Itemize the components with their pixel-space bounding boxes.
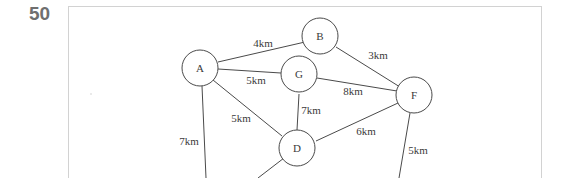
edge-g-d bbox=[297, 94, 299, 130]
speck-mark bbox=[90, 93, 92, 95]
node-a: A bbox=[182, 50, 218, 86]
edge-label-d-f: 6km bbox=[356, 125, 376, 137]
edge-a-d bbox=[213, 80, 282, 136]
edge-d-bottom bbox=[258, 158, 284, 178]
svg-text:B: B bbox=[316, 30, 323, 42]
edge-label-a-g: 5km bbox=[246, 74, 266, 86]
edge-label-g-d: 7km bbox=[301, 104, 321, 116]
svg-text:D: D bbox=[293, 142, 301, 154]
node-g: G bbox=[281, 56, 317, 92]
edge-a-bottom bbox=[202, 86, 206, 178]
edge-label-a-b: 4km bbox=[253, 37, 273, 49]
network-graph: A B G F D 4km 5km 3km 8km 7km 5km 6km 7k… bbox=[0, 0, 568, 178]
node-b: B bbox=[302, 18, 338, 54]
edge-a-g bbox=[218, 69, 281, 73]
svg-text:A: A bbox=[196, 62, 204, 74]
edge-label-f-bottom: 5km bbox=[408, 144, 428, 156]
node-f: F bbox=[396, 77, 432, 113]
edge-label-a-bottom: 7km bbox=[179, 135, 199, 147]
svg-text:F: F bbox=[411, 89, 417, 101]
svg-text:G: G bbox=[295, 68, 303, 80]
edge-label-b-f: 3km bbox=[368, 49, 388, 61]
edge-label-g-f: 8km bbox=[343, 85, 363, 97]
edge-label-a-d: 5km bbox=[231, 112, 251, 124]
node-d: D bbox=[279, 130, 315, 166]
